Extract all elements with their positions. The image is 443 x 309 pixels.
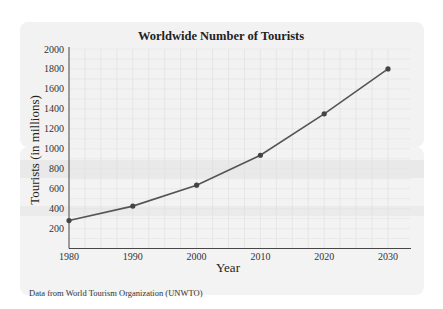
- x-tick-label: 2020: [314, 251, 334, 262]
- y-tick-label: 400: [49, 203, 64, 214]
- y-tick-label: 1200: [44, 123, 64, 134]
- y-axis-label: Tourists (in millions): [27, 95, 42, 205]
- data-point: [322, 111, 327, 116]
- data-point: [66, 218, 71, 223]
- x-tick-label: 2000: [187, 251, 207, 262]
- x-tick-label: 1990: [123, 251, 143, 262]
- x-tick-label: 1980: [59, 251, 79, 262]
- y-tick-label: 1600: [44, 83, 64, 94]
- x-axis-label: Year: [216, 260, 241, 275]
- data-point: [385, 66, 390, 71]
- y-tick-label: 200: [49, 223, 64, 234]
- source-note: Data from World Tourism Organization (UN…: [29, 288, 203, 298]
- y-tick-label: 1800: [44, 63, 64, 74]
- y-tick-label: 2000: [44, 44, 64, 55]
- y-tick-label: 800: [49, 163, 64, 174]
- y-tick-label: 1400: [44, 103, 64, 114]
- chart-title: Worldwide Number of Tourists: [138, 29, 304, 43]
- data-point: [130, 204, 135, 209]
- chart: 200400600800100012001400160018002000 198…: [0, 0, 443, 309]
- data-point: [258, 153, 263, 158]
- x-tick-label: 2010: [250, 251, 270, 262]
- y-tick-label: 1000: [44, 143, 64, 154]
- x-tick-label: 2030: [378, 251, 398, 262]
- y-tick-label: 600: [49, 183, 64, 194]
- data-point: [194, 183, 199, 188]
